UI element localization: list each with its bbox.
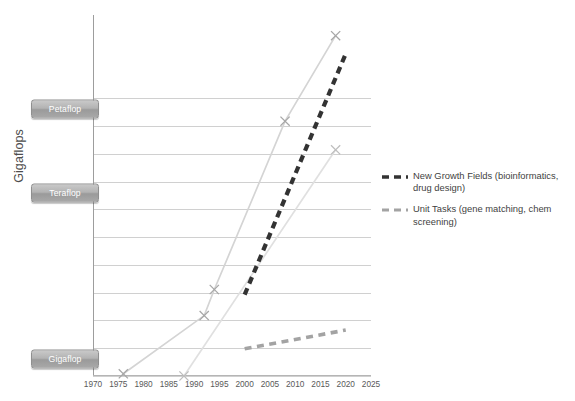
- x-tick-label: 1980: [134, 379, 152, 389]
- legend-label: Unit Tasks (gene matching, chem screenin…: [413, 203, 572, 227]
- chart-container: Gigaflops 1,000,000,000.000100,000,000.0…: [0, 0, 575, 401]
- series-layer: [93, 15, 371, 376]
- scale-badge-gigaflop: Gigaflop: [31, 350, 99, 369]
- series-line-2: [245, 54, 346, 295]
- x-tick-label: 1975: [109, 379, 127, 389]
- y-axis-title: Gigaflops: [12, 108, 32, 204]
- x-tick-label: 1990: [185, 379, 203, 389]
- chart-legend: New Growth Fields (bioinformatics, drug …: [382, 170, 572, 237]
- data-point-marker: [200, 311, 209, 320]
- x-tick-label: 2020: [337, 379, 355, 389]
- x-tick-label: 1985: [160, 379, 178, 389]
- legend-swatch-icon: [382, 204, 408, 216]
- series-line-3: [245, 330, 346, 349]
- series-line-1: [184, 150, 336, 376]
- legend-swatch-icon: [382, 171, 408, 183]
- plot-area: 1,000,000,000.000100,000,000.00010,000,0…: [93, 15, 371, 376]
- legend-item[interactable]: Unit Tasks (gene matching, chem screenin…: [382, 203, 572, 227]
- x-tick-label: 1970: [84, 379, 102, 389]
- scale-badge-petaflop: Petaflop: [31, 100, 99, 119]
- plot-surface: [93, 15, 371, 376]
- x-tick-label: 2005: [261, 379, 279, 389]
- x-tick-label: 2000: [235, 379, 253, 389]
- data-point-marker: [331, 145, 340, 154]
- legend-item[interactable]: New Growth Fields (bioinformatics, drug …: [382, 170, 572, 194]
- series-line-0: [123, 36, 335, 374]
- x-tick-label: 2015: [311, 379, 329, 389]
- x-tick-label: 2025: [362, 379, 380, 389]
- data-point-marker: [210, 285, 219, 294]
- legend-label: New Growth Fields (bioinformatics, drug …: [413, 170, 572, 194]
- x-axis-tick-labels: 1970197519801985199019952000200520102015…: [93, 379, 371, 395]
- x-tick-label: 1995: [210, 379, 228, 389]
- data-point-marker: [331, 31, 340, 40]
- gridline: [93, 376, 371, 377]
- x-tick-label: 2010: [286, 379, 304, 389]
- scale-badge-teraflop: Teraflop: [31, 183, 99, 202]
- data-point-marker: [280, 117, 289, 126]
- data-point-marker: [119, 369, 128, 378]
